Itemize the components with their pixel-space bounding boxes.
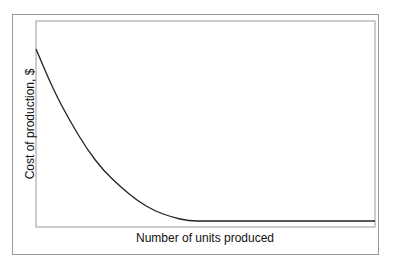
- cost-curve: [36, 49, 375, 221]
- plot-area: [36, 21, 375, 227]
- chart-plot: [0, 0, 393, 264]
- y-axis-label: Cost of production, $: [23, 69, 37, 180]
- x-axis-label: Number of units produced: [136, 231, 274, 245]
